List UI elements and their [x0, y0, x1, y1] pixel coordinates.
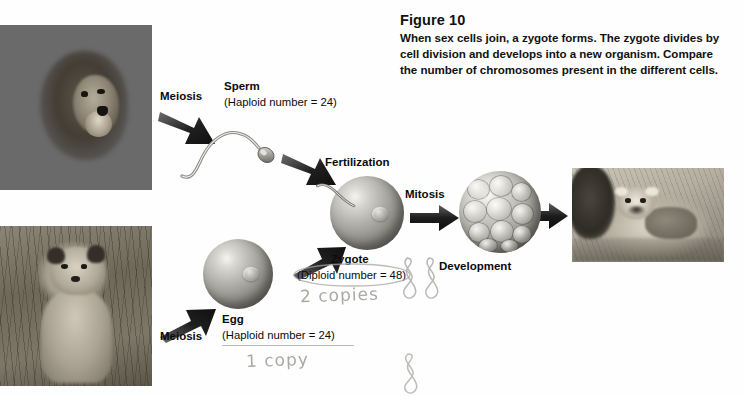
label-development: Development [439, 260, 511, 272]
blastomere [490, 176, 512, 196]
figure-caption: Figure 10 When sex cells join, a zygote … [400, 12, 735, 79]
lion-eye-left [81, 91, 89, 97]
lion-eye-right [97, 89, 105, 95]
label-egg-haploid: (Haploid number = 24) [222, 329, 335, 341]
cub-body [645, 207, 697, 239]
label-egg: Egg [222, 313, 244, 325]
blastomere [487, 198, 511, 220]
lioness-photo-texture [0, 226, 152, 386]
chromosome-single-doodle [396, 352, 426, 394]
blastomere [468, 180, 489, 199]
cub-ground [572, 238, 724, 262]
blastomere [512, 204, 533, 224]
handwritten-one-copy: 1 copy [246, 349, 309, 371]
sperm-entering-zygote-icon [316, 180, 356, 212]
label-meiosis-bottom: Meiosis [160, 330, 202, 342]
label-sperm: Sperm [224, 80, 260, 92]
lioness-eye-left [61, 264, 68, 269]
egg-nucleus [243, 267, 259, 281]
lion-cub-photo [572, 168, 724, 262]
lioness-ear-right [87, 245, 105, 263]
blastomere [491, 221, 513, 242]
figure-caption-line-1: When sex cells join, a zygote forms. The… [400, 30, 735, 46]
figure-page: Figure 10 When sex cells join, a zygote … [0, 0, 743, 396]
zygote-nucleus [372, 207, 388, 221]
male-lion-photo [0, 25, 152, 190]
morula-cell [459, 171, 541, 253]
blastomere [501, 240, 518, 252]
lion-nose [97, 106, 108, 116]
label-sperm-haploid: (Haploid number = 24) [224, 96, 337, 108]
lioness-body [41, 290, 112, 383]
handwritten-underline-egg [222, 345, 354, 346]
lioness-ear-left [47, 247, 65, 265]
blastomere [464, 201, 486, 222]
label-mitosis: Mitosis [405, 188, 445, 200]
cub-ear-right [645, 187, 659, 196]
cub-eye-left [625, 198, 631, 203]
figure-caption-line-3: the number of chromosomes present in the… [400, 62, 735, 78]
chromosome-pair-doodle [398, 256, 446, 300]
lion-cub-photo-texture [572, 168, 724, 262]
blastomere [479, 239, 497, 252]
blastomere [513, 226, 531, 243]
egg-cell [203, 239, 273, 309]
figure-title: Figure 10 [400, 12, 735, 28]
arrow-mitosis [410, 205, 460, 231]
sperm-cell [180, 120, 290, 185]
blastomere [512, 183, 531, 201]
lioness-nose [71, 276, 80, 282]
label-fertilization: Fertilization [325, 156, 390, 168]
male-lion-photo-texture [0, 25, 152, 190]
cub-muzzle [628, 206, 645, 215]
lioness-photo [0, 226, 152, 386]
cub-bush [572, 168, 615, 239]
label-meiosis-top: Meiosis [160, 90, 202, 102]
figure-caption-line-2: cell division and develops into a new or… [400, 46, 735, 62]
handwritten-two-copies: 2 copies [300, 284, 379, 307]
